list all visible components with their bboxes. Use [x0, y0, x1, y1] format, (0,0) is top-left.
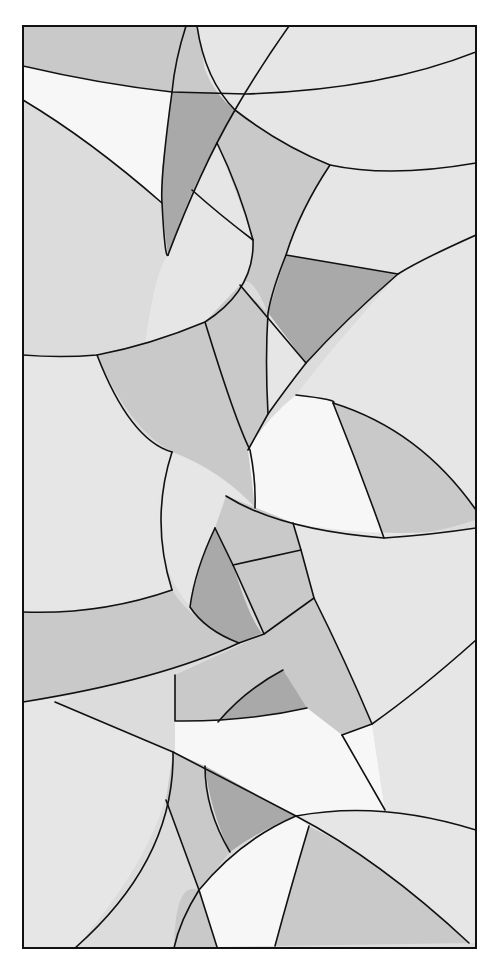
glass-panels — [23, 26, 476, 948]
stained-glass-artwork — [0, 0, 502, 972]
